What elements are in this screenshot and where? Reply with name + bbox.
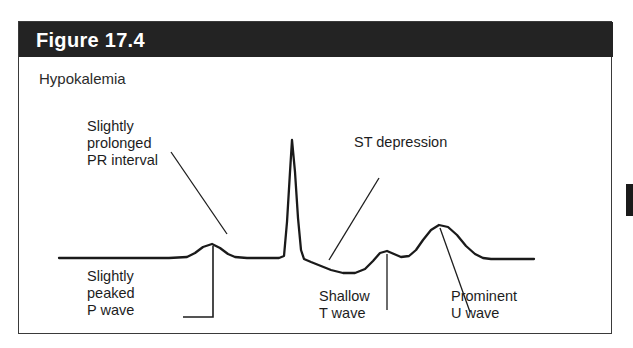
annotation-pr-interval: Slightly prolonged PR interval xyxy=(87,118,158,169)
annotation-p-wave: Slightly peaked P wave xyxy=(87,268,135,319)
st-depression-leader-line xyxy=(329,178,379,260)
annotation-t-wave: Shallow T wave xyxy=(319,288,370,322)
figure-page: Figure 17.4 Hypokalemia Slightly prolong… xyxy=(0,0,633,348)
page-edge-tab-marker xyxy=(626,184,633,216)
figure-box: Figure 17.4 Hypokalemia Slightly prolong… xyxy=(18,21,612,334)
pr-interval-leader-line xyxy=(171,152,227,234)
annotation-u-wave: Prominent U wave xyxy=(451,288,517,322)
annotation-st-depression: ST depression xyxy=(354,134,447,151)
